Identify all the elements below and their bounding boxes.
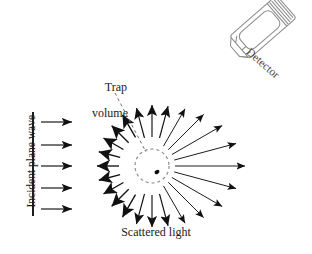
- diagram-canvas: [0, 0, 312, 254]
- scattered-light-arrow: [164, 186, 186, 223]
- scattered-light-arrow: [136, 194, 144, 224]
- trap-volume-circle: [135, 149, 169, 183]
- scattered-light-arrow: [99, 175, 120, 181]
- trapped-particle-dot: [154, 169, 160, 175]
- scattered-light-arrow: [168, 114, 203, 149]
- trap-volume-label-line2: volume: [73, 107, 147, 120]
- scattered-light-arrow: [99, 152, 120, 158]
- scattered-light-arrow: [104, 183, 124, 195]
- trap-volume-label: Trap volume: [73, 68, 147, 146]
- scattered-light-arrow: [160, 106, 169, 138]
- scattered-light-arrow: [174, 172, 236, 189]
- scattered-light-arrow: [172, 126, 222, 155]
- incident-plane-wave-label: Incident plane wave: [25, 101, 37, 221]
- scattered-light-label: Scattered light: [86, 226, 226, 239]
- scattering-diagram: Incident plane wave Trap volume Scattere…: [0, 0, 312, 254]
- scattered-light-arrow: [174, 143, 236, 160]
- trap-volume-label-line1: Trap: [105, 80, 127, 94]
- incident-wavefront-group: [33, 112, 72, 216]
- scattered-light-arrow: [112, 189, 129, 206]
- incident-plane-wave-arrows: [41, 122, 72, 209]
- scattered-light-arrow: [172, 178, 222, 207]
- scattered-light-arrow: [164, 109, 186, 146]
- scattered-light-arrow: [168, 182, 203, 217]
- scattered-light-arrow: [123, 195, 136, 218]
- scattered-light-arrow: [160, 194, 169, 226]
